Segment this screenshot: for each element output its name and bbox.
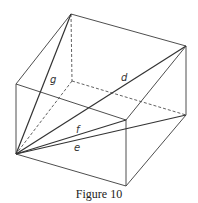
edge-bottom-front-right [126, 115, 186, 186]
diagonal-f [16, 120, 126, 154]
label-g: g [50, 74, 56, 85]
edge-top-right-front [126, 46, 186, 120]
box-diagram: g d f e [0, 0, 198, 203]
edge-bottom-left-front [16, 154, 126, 186]
diagonal-d [16, 46, 186, 154]
label-f: f [76, 124, 81, 135]
diagonal-g [16, 14, 71, 154]
figure-caption: Figure 10 [0, 187, 198, 202]
hidden-edge-vertical-back [71, 14, 72, 81]
edge-top-left-back [16, 14, 71, 84]
edge-top-back-right [71, 14, 186, 46]
label-e: e [74, 142, 80, 153]
label-d: d [121, 72, 128, 83]
edge-top-front-left [16, 84, 126, 120]
hidden-edge-back-right [72, 81, 186, 115]
